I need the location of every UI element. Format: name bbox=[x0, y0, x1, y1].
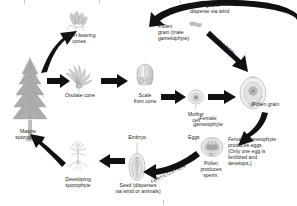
conifer-life-cycle-diagram: Pollen-bearing cones Pollen grains dispe… bbox=[0, 0, 297, 206]
arrow-mothercell-to-ovule bbox=[208, 90, 236, 104]
page-crop-mark-top-left bbox=[24, 0, 25, 4]
page-crop-mark-top-right bbox=[180, 0, 181, 4]
developing-sporophyte-icon bbox=[67, 141, 89, 170]
diagram-artwork bbox=[0, 0, 297, 206]
pollen-bearing-cones-icon bbox=[67, 11, 88, 31]
ovule-icon bbox=[240, 76, 266, 109]
arrow-tree-to-pollen-cones bbox=[41, 31, 77, 73]
mature-conifer-tree-icon bbox=[13, 57, 47, 142]
mother-cell-icon bbox=[189, 90, 204, 110]
arrow-pollination bbox=[206, 31, 248, 72]
page-crop-mark-bottom bbox=[163, 200, 164, 205]
page-crop-mark-top-mid bbox=[99, 0, 100, 4]
arrow-ovule-to-gametophyte bbox=[238, 112, 268, 146]
ovulate-cone-icon bbox=[66, 66, 92, 94]
arrow-fertilization bbox=[143, 151, 200, 180]
arrow-ovulate-cone-to-scale bbox=[101, 74, 128, 88]
pollen-grain-cluster-icon bbox=[190, 22, 202, 27]
arrow-scale-to-ovule bbox=[161, 90, 186, 104]
female-gametophyte-icon bbox=[201, 138, 223, 158]
arrow-seedling-to-tree bbox=[30, 134, 66, 167]
arrow-pollen-cones-to-dispersal bbox=[149, 0, 297, 27]
seed-icon bbox=[129, 143, 145, 181]
arrow-tree-to-ovulate-cone bbox=[47, 74, 70, 88]
cone-scale-icon bbox=[137, 64, 153, 85]
arrow-seed-to-seedling bbox=[99, 154, 125, 168]
